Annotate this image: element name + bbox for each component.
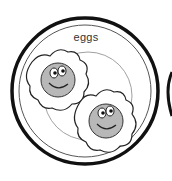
next-plate-edge bbox=[168, 72, 172, 116]
eggs-plate-illustration bbox=[0, 0, 172, 181]
egg-1-yolk bbox=[41, 63, 75, 97]
eggs-label: eggs bbox=[66, 31, 106, 43]
